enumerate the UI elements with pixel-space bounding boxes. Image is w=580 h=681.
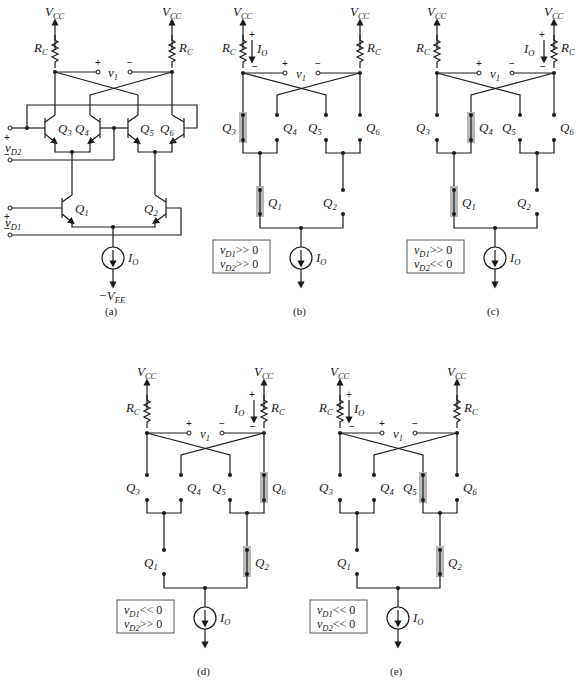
panel-e-switch-model: VCC VCC RC RC + IO − + − v1 Q3 Q4 Q5 Q6 xyxy=(310,364,478,678)
q3-label: Q3 xyxy=(58,121,72,138)
io-label: IO xyxy=(127,250,138,267)
vcc-label-right: VCC xyxy=(162,4,182,21)
svg-text:−: − xyxy=(219,418,225,429)
svg-text:IO: IO xyxy=(412,610,423,627)
svg-text:Q5: Q5 xyxy=(308,120,322,137)
svg-text:Q3: Q3 xyxy=(416,120,430,137)
rc-resistor-left xyxy=(52,35,58,68)
vd1-label: vD1 xyxy=(5,215,21,232)
svg-text:VCC: VCC xyxy=(330,364,350,381)
svg-text:IO: IO xyxy=(256,41,267,58)
svg-text:Q1: Q1 xyxy=(144,555,158,572)
svg-text:Q4: Q4 xyxy=(187,480,201,497)
caption-b: (b) xyxy=(293,305,306,318)
svg-text:+: + xyxy=(346,389,352,400)
svg-text:Q1: Q1 xyxy=(268,195,282,212)
svg-text:Q5: Q5 xyxy=(212,480,226,497)
svg-text:Q2: Q2 xyxy=(448,555,462,572)
q1-label: Q1 xyxy=(75,201,89,218)
rc-label-left: RC xyxy=(33,40,48,57)
svg-text:IO: IO xyxy=(353,401,364,418)
vd2-label: vD2 xyxy=(5,140,22,157)
vee-label: −VEE xyxy=(98,288,126,305)
svg-text:VCC: VCC xyxy=(254,364,274,381)
svg-text:−: − xyxy=(315,58,321,69)
svg-text:Q5: Q5 xyxy=(403,480,417,497)
minus-sign: − xyxy=(127,57,133,68)
v1-terminal-plus xyxy=(96,70,100,74)
svg-text:RC: RC xyxy=(463,400,478,417)
svg-text:IO: IO xyxy=(523,41,534,58)
vd2-terminal-plus xyxy=(8,126,12,130)
svg-text:VCC: VCC xyxy=(447,364,467,381)
svg-text:Q4: Q4 xyxy=(283,120,297,137)
q2-label: Q2 xyxy=(144,201,158,218)
svg-text:RC: RC xyxy=(415,40,430,57)
svg-text:Q6: Q6 xyxy=(463,480,477,497)
svg-text:Q4: Q4 xyxy=(380,480,394,497)
rc-label-right: RC xyxy=(178,40,193,57)
svg-text:VCC: VCC xyxy=(350,4,370,21)
svg-text:v1: v1 xyxy=(393,426,403,443)
svg-text:Q4: Q4 xyxy=(479,120,493,137)
svg-text:VCC: VCC xyxy=(137,364,157,381)
q5-label: Q5 xyxy=(140,121,154,138)
svg-text:VCC: VCC xyxy=(427,4,447,21)
svg-text:Q6: Q6 xyxy=(560,120,574,137)
svg-text:IO: IO xyxy=(233,401,244,418)
vd1-terminal-plus xyxy=(8,206,12,210)
svg-text:VCC: VCC xyxy=(544,4,564,21)
svg-text:RC: RC xyxy=(560,40,575,57)
q4-label: Q4 xyxy=(75,121,89,138)
svg-text:+: + xyxy=(282,58,288,69)
svg-text:+: + xyxy=(186,418,192,429)
caption-a: (a) xyxy=(105,305,118,318)
panel-c-switch-model: VCC VCC RC RC + IO − + − v1 Q3 Q4 Q5 Q6 xyxy=(407,4,575,318)
svg-text:RC: RC xyxy=(318,400,333,417)
svg-text:VCC: VCC xyxy=(233,4,253,21)
svg-text:Q1: Q1 xyxy=(337,555,351,572)
gilbert-cell-figure: VCC VCC RC RC + − v1 Q3 xyxy=(0,0,580,681)
svg-text:Q3: Q3 xyxy=(319,480,333,497)
svg-text:−: − xyxy=(412,418,418,429)
svg-text:Q6: Q6 xyxy=(272,480,286,497)
svg-text:RC: RC xyxy=(221,40,236,57)
svg-text:Q1: Q1 xyxy=(462,195,476,212)
plus-sign: + xyxy=(95,57,101,68)
svg-text:Q5: Q5 xyxy=(502,120,516,137)
panel-d-switch-model: VCC VCC RC RC + IO − + − v1 Q3 Q4 Q5 Q6 xyxy=(117,364,286,678)
v1-terminal-minus xyxy=(128,70,132,74)
svg-text:Q6: Q6 xyxy=(366,120,380,137)
vcc-label-left: VCC xyxy=(45,4,65,21)
svg-text:IO: IO xyxy=(509,250,520,267)
svg-text:RC: RC xyxy=(270,400,285,417)
panel-b-switch-model: VCC VCC RC RC + IO − + − v1 Q3 Q4 Q5 Q6 xyxy=(213,4,381,318)
svg-text:+: + xyxy=(476,58,482,69)
svg-text:−: − xyxy=(349,421,355,432)
svg-text:−: − xyxy=(250,421,256,432)
svg-text:−: − xyxy=(252,61,258,72)
svg-text:+: + xyxy=(379,418,385,429)
caption-d: (d) xyxy=(197,665,210,678)
svg-text:+: + xyxy=(539,29,545,40)
svg-text:Q3: Q3 xyxy=(126,480,140,497)
q6-label: Q6 xyxy=(160,121,174,138)
v1-label: v1 xyxy=(108,65,118,82)
svg-text:v1: v1 xyxy=(296,66,306,83)
svg-text:Q2: Q2 xyxy=(517,195,531,212)
svg-text:Q3: Q3 xyxy=(222,120,236,137)
svg-text:−: − xyxy=(509,58,515,69)
svg-text:v1: v1 xyxy=(200,426,210,443)
caption-e: (e) xyxy=(390,665,403,678)
svg-text:IO: IO xyxy=(315,250,326,267)
panel-a-full-circuit: VCC VCC RC RC + − v1 Q3 xyxy=(4,4,197,318)
rc-resistor-right xyxy=(169,35,175,68)
svg-text:Q2: Q2 xyxy=(255,555,269,572)
caption-c: (c) xyxy=(487,305,500,318)
svg-text:Q2: Q2 xyxy=(323,195,337,212)
svg-text:+: + xyxy=(249,389,255,400)
svg-text:v1: v1 xyxy=(490,66,500,83)
svg-text:RC: RC xyxy=(125,400,140,417)
svg-text:+: + xyxy=(249,29,255,40)
svg-text:IO: IO xyxy=(219,610,230,627)
